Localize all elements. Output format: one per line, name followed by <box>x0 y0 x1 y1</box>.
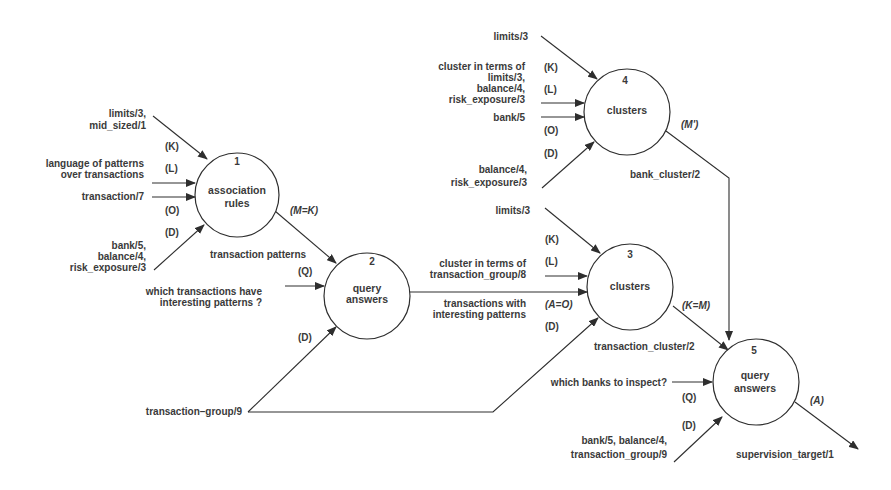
node-3-number: 3 <box>627 249 633 260</box>
edge-k-to-node1 <box>153 116 207 159</box>
node1-out-tag: (M=K) <box>290 205 319 216</box>
knowledge-discovery-process-diagram: 1 association rules 2 query answers 3 cl… <box>0 0 891 490</box>
node-5-title-line2: answers <box>734 382 776 394</box>
node1-o-label: transaction/7 <box>82 191 145 202</box>
node5-d-tag: (D) <box>682 420 696 431</box>
node3-out-tag: (K=M) <box>682 300 711 311</box>
node1-o-tag: (O) <box>165 205 179 216</box>
node1-k-label-line1: limits/3, <box>109 108 146 119</box>
node4-d-label-line2: risk_exposure/3 <box>451 177 528 188</box>
node2-q-label-line2: interesting patterns ? <box>160 297 262 308</box>
node1-d-label-line1: bank/5, <box>112 240 147 251</box>
node-1-number: 1 <box>234 156 240 167</box>
node-5[interactable]: 5 query answers <box>713 339 799 425</box>
node1-d-label-line3: risk_exposure/3 <box>70 262 147 273</box>
edge-k-to-node3 <box>545 208 600 253</box>
node3-o-tag: (A=O) <box>545 299 573 310</box>
node-3[interactable]: 3 clusters <box>587 244 673 330</box>
node4-k-tag: (K) <box>544 62 558 73</box>
node4-l-label-line3: balance/4, <box>477 83 526 94</box>
node-1-title-line2: rules <box>224 197 249 209</box>
node3-l-label-line2: transaction_group/8 <box>430 269 527 280</box>
node-2-title-line2: answers <box>346 293 388 305</box>
node-2[interactable]: 2 query answers <box>324 253 410 339</box>
node-4-number: 4 <box>622 75 628 86</box>
node4-out-label: bank_cluster/2 <box>630 169 700 180</box>
node4-o-label: bank/5 <box>493 112 525 123</box>
node1-d-label-line2: balance/4, <box>98 251 147 262</box>
node2-q-label-line1: which transactions have <box>145 286 263 297</box>
node-5-number: 5 <box>751 345 757 356</box>
node1-out-label: transaction patterns <box>210 249 307 260</box>
node1-d-tag: (D) <box>165 227 179 238</box>
node3-k-label: limits/3 <box>496 205 531 216</box>
node3-out-label: transaction_cluster/2 <box>594 341 695 352</box>
node4-l-label-line4: risk_exposure/3 <box>449 94 526 105</box>
node3-l-tag: (L) <box>545 256 558 267</box>
node-3-title: clusters <box>610 280 650 292</box>
node2-d-label: transaction–group/9 <box>146 406 243 417</box>
edge-d-to-node2 <box>248 327 336 412</box>
node2-d-tag: (D) <box>298 332 312 343</box>
node4-o-tag: (O) <box>544 125 558 136</box>
node3-l-label-line1: cluster in terms of <box>439 258 526 269</box>
node5-q-tag: (Q) <box>682 392 696 403</box>
node3-o-label-line1: transactions with <box>444 298 526 309</box>
node4-l-label-line2: limits/3, <box>488 72 525 83</box>
node-4-title: clusters <box>607 104 647 116</box>
node4-d-label-line1: balance/4, <box>479 164 528 175</box>
node4-k-label: limits/3 <box>494 31 529 42</box>
node5-out-label: supervision_target/1 <box>736 449 834 460</box>
node1-k-label-line2: mid_sized/1 <box>89 120 146 131</box>
node-2-labels: (Q) which transactions have interesting … <box>145 266 313 417</box>
node5-q-label: which banks to inspect? <box>550 377 667 388</box>
node5-out-tag: (A) <box>810 395 825 406</box>
node-2-number: 2 <box>369 256 375 267</box>
node1-l-tag: (L) <box>165 163 178 174</box>
node-5-title-line1: query <box>741 369 770 381</box>
node4-l-label-line1: cluster in terms of <box>438 61 525 72</box>
node4-l-tag: (L) <box>544 84 557 95</box>
node3-k-tag: (K) <box>545 234 559 245</box>
node3-o-label-line2: interesting patterns <box>433 309 527 320</box>
node4-out-tag: (M') <box>681 119 699 130</box>
node5-d-label-line1: bank/5, balance/4, <box>581 435 667 446</box>
node5-d-label-line2: transaction_group/9 <box>571 449 668 460</box>
node2-q-tag: (Q) <box>298 266 312 277</box>
node-1[interactable]: 1 association rules <box>195 153 279 237</box>
node-4[interactable]: 4 clusters <box>584 69 670 155</box>
edge-node5-output <box>795 402 858 449</box>
edge-d-to-node1 <box>154 225 204 270</box>
node1-l-label-line2: over transactions <box>61 169 145 180</box>
node3-d-tag: (D) <box>545 321 559 332</box>
node4-d-tag: (D) <box>544 148 558 159</box>
node1-k-tag: (K) <box>165 141 179 152</box>
node1-l-label-line1: language of patterns <box>46 158 145 169</box>
node-1-title-line1: association <box>208 184 266 196</box>
